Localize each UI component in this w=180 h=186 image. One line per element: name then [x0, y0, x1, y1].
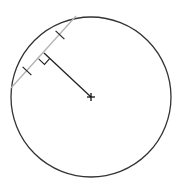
- right-angle-marker: [39, 58, 50, 64]
- circle-chord-diagram: [0, 0, 180, 186]
- chord: [11, 16, 76, 88]
- perpendicular-segment: [44, 53, 91, 97]
